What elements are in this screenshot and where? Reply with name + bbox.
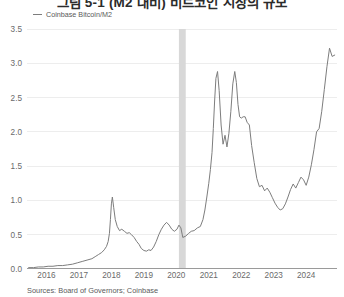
x-axis-tick-label: 2017: [70, 271, 88, 280]
y-axis: 0.00.51.01.52.02.53.03.5: [0, 29, 25, 269]
x-axis: 201620172018201920202021202220232024: [27, 271, 337, 285]
x-axis-tick-label: 2022: [232, 271, 250, 280]
y-axis-tick-label: 2.0: [11, 127, 22, 136]
y-axis-tick-label: 1.5: [11, 162, 22, 171]
x-axis-tick-label: 2018: [102, 271, 120, 280]
y-axis-tick-label: 3.5: [11, 25, 22, 34]
source-note: Sources: Board of Governors; Coinbase: [27, 286, 158, 295]
x-axis-tick-label: 2021: [200, 271, 218, 280]
x-axis-tick-label: 2019: [135, 271, 153, 280]
y-axis-tick-label: 2.5: [11, 93, 22, 102]
y-axis-tick-label: 0.5: [11, 230, 22, 239]
plot-area: [27, 29, 337, 269]
x-axis-tick-label: 2016: [37, 271, 55, 280]
y-axis-tick-label: 0.0: [11, 265, 22, 274]
x-axis-tick-label: 2020: [167, 271, 185, 280]
chart-legend: Coinbase Bitcoin/M2: [33, 10, 112, 19]
y-axis-tick-label: 1.0: [11, 196, 22, 205]
legend-line-swatch-icon: [33, 14, 42, 15]
legend-item-label: Coinbase Bitcoin/M2: [46, 10, 112, 19]
y-axis-tick-label: 3.0: [11, 59, 22, 68]
x-axis-tick-label: 2024: [297, 271, 315, 280]
x-axis-tick-label: 2023: [265, 271, 283, 280]
chart-canvas: [27, 29, 337, 269]
